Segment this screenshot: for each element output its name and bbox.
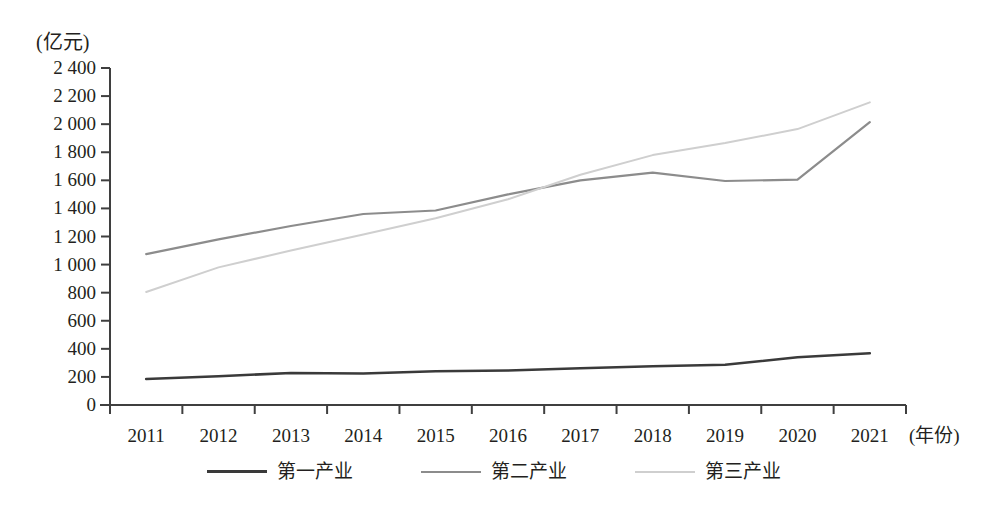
legend-line-icon xyxy=(207,470,267,473)
legend-item[interactable]: 第一产业 xyxy=(207,462,353,481)
legend-label: 第二产业 xyxy=(491,462,567,481)
plot-area xyxy=(0,0,987,514)
legend-item[interactable]: 第二产业 xyxy=(421,462,567,481)
series-line-3 xyxy=(146,102,870,292)
chart-legend: 第一产业第二产业第三产业 xyxy=(0,462,987,481)
legend-line-icon xyxy=(635,471,695,473)
series-line-2 xyxy=(146,122,870,254)
legend-label: 第三产业 xyxy=(705,462,781,481)
legend-label: 第一产业 xyxy=(277,462,353,481)
legend-line-icon xyxy=(421,471,481,473)
line-chart: (亿元) 02004006008001 0001 2001 4001 6001 … xyxy=(0,0,987,514)
series-line-1 xyxy=(146,353,870,379)
legend-item[interactable]: 第三产业 xyxy=(635,462,781,481)
